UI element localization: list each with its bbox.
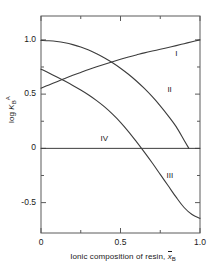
y-tick-label: 1.0 <box>10 34 36 44</box>
curve-label-III: III <box>167 171 174 180</box>
figure-container: Ionic composition of resin, xB log KBA 0… <box>0 0 215 267</box>
curve-label-I: I <box>175 49 177 58</box>
y-tick-label: 0 <box>10 142 36 152</box>
x-axis-label: Ionic composition of resin, xB <box>38 252 208 261</box>
y-tick-label: 0.5 <box>10 88 36 98</box>
data-curves <box>41 40 200 218</box>
x-tick-label: 1.0 <box>188 237 212 247</box>
x-tick-label: 0.5 <box>109 237 133 247</box>
x-tick-label: 0 <box>29 237 53 247</box>
curve-III <box>41 69 200 218</box>
y-tick-label: -0.5 <box>10 197 36 207</box>
curve-label-II: II <box>167 85 171 94</box>
curve-label-IV: IV <box>101 134 109 143</box>
